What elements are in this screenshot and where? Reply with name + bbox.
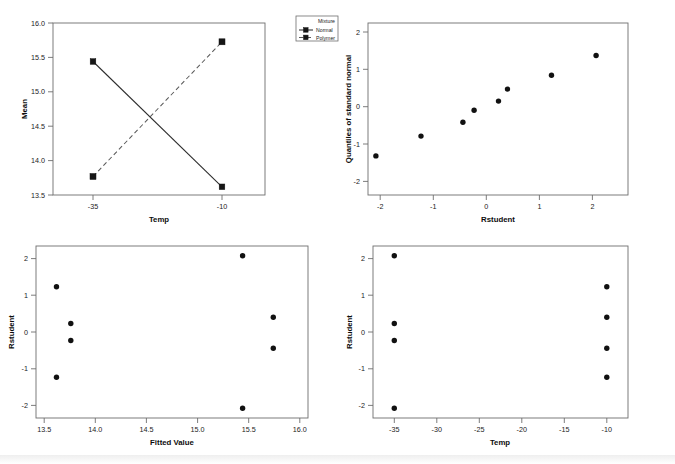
data-point <box>471 108 476 113</box>
y-ticklabel: 2 <box>24 254 28 263</box>
scatter-points <box>392 253 610 411</box>
y-ticklabel: -2 <box>22 401 28 410</box>
y-ticklabel: 15.0 <box>31 87 45 96</box>
y-axis-label: Quantiles of standard normal <box>344 55 353 163</box>
legend-label-normal: Normal <box>316 27 333 33</box>
data-point <box>505 86 510 91</box>
y-ticklabel: 1 <box>24 291 28 300</box>
x-ticklabel: -2 <box>377 202 383 211</box>
x-ticklabel: -25 <box>474 425 484 434</box>
x-axis-ticklabels: -2 -1 0 1 2 <box>377 202 594 211</box>
x-axis-ticklabels: 13.5 14.0 14.5 15.0 15.5 16.0 <box>37 425 307 434</box>
x-ticklabel: 15.5 <box>242 425 256 434</box>
y-ticklabel: 2 <box>356 28 360 37</box>
data-point-marker <box>90 59 96 65</box>
x-ticklabel: -10 <box>602 425 612 434</box>
x-axis-label: Fitted Value <box>150 438 194 447</box>
y-axis-label: Mean <box>20 99 29 119</box>
y-ticklabel: 1 <box>361 291 365 300</box>
y-axis-ticklabels: -2 -1 0 1 2 <box>22 254 28 410</box>
y-axis-ticklabels: 13.5 14.0 14.5 15.0 15.5 16.0 <box>31 19 45 200</box>
x-ticklabel: -10 <box>217 202 227 211</box>
x-ticklabel: -35 <box>88 202 98 211</box>
series-polymer <box>90 39 225 180</box>
y-ticklabel: -1 <box>354 140 360 149</box>
x-axis-ticks <box>93 195 222 200</box>
y-axis-label: Rstudent <box>345 315 354 349</box>
data-point <box>593 53 598 58</box>
x-ticklabel: -30 <box>432 425 442 434</box>
plot-frame <box>368 23 628 195</box>
x-ticklabel: 16.0 <box>293 425 307 434</box>
data-point <box>54 284 59 289</box>
page-scan-edge <box>0 455 675 464</box>
x-ticklabel: 15.0 <box>191 425 205 434</box>
data-point-marker <box>90 174 96 180</box>
interaction-plot-svg: 13.5 14.0 14.5 15.0 15.5 16.0 -35 -10 Te… <box>0 0 340 232</box>
data-point <box>604 284 609 289</box>
x-axis-label: Rstudent <box>481 215 515 224</box>
x-ticklabel: 0 <box>484 202 488 211</box>
y-ticklabel: -1 <box>22 364 28 373</box>
y-ticklabel: 14.0 <box>31 156 45 165</box>
x-axis-ticks <box>44 418 300 423</box>
x-ticklabel: 14.5 <box>139 425 153 434</box>
y-ticklabel: 14.5 <box>31 122 45 131</box>
y-axis-ticks <box>363 32 368 181</box>
x-ticklabel: 1 <box>537 202 541 211</box>
legend-label-polymer: Polymer <box>316 35 335 41</box>
y-axis-ticklabels: -2 -1 0 1 2 <box>354 28 360 186</box>
data-point <box>418 133 423 138</box>
y-axis-ticks <box>31 259 36 406</box>
data-point-marker <box>219 184 225 190</box>
data-point <box>392 253 397 258</box>
normal-probability-plot-svg: -2 -1 0 1 2 -2 -1 0 1 2 Rstudent Q <box>340 0 675 232</box>
y-axis-ticks <box>48 23 53 195</box>
data-point <box>604 375 609 380</box>
series-normal <box>90 59 225 190</box>
y-ticklabel: 0 <box>356 102 360 111</box>
x-ticklabel: 14.0 <box>88 425 102 434</box>
y-ticklabel: -2 <box>359 401 365 410</box>
y-ticklabel: 1 <box>356 65 360 74</box>
y-axis-ticks <box>368 259 373 406</box>
rstudent-temp-plot-svg: -2 -1 0 1 2 -35 -30 -25 -20 -15 -10 <box>340 232 675 464</box>
plot-frame <box>36 246 308 418</box>
x-ticklabel: 2 <box>590 202 594 211</box>
x-ticklabel: 13.5 <box>37 425 51 434</box>
x-ticklabel: -35 <box>389 425 399 434</box>
legend-marker-normal <box>304 28 309 33</box>
y-ticklabel: -2 <box>354 177 360 186</box>
y-ticklabel: 16.0 <box>31 19 45 28</box>
scatter-points <box>54 253 276 411</box>
data-point <box>604 346 609 351</box>
data-point <box>496 98 501 103</box>
statistical-diagnostic-figure: 13.5 14.0 14.5 15.0 15.5 16.0 -35 -10 Te… <box>0 0 675 464</box>
data-point <box>271 346 276 351</box>
data-point <box>373 153 378 158</box>
data-point <box>271 315 276 320</box>
legend-mixture[interactable]: Mixture Normal Polymer <box>296 16 338 41</box>
x-axis-label: Temp <box>490 438 510 447</box>
legend-title: Mixture <box>318 18 335 24</box>
plot-frame <box>373 246 628 418</box>
data-point <box>460 120 465 125</box>
scatter-points <box>373 53 599 159</box>
x-axis-ticks <box>394 418 607 423</box>
data-point <box>54 375 59 380</box>
x-axis-label: Temp <box>149 215 169 224</box>
x-axis-ticklabels: -35 -30 -25 -20 -15 -10 <box>389 425 612 434</box>
panel-interaction-plot: 13.5 14.0 14.5 15.0 15.5 16.0 -35 -10 Te… <box>0 0 340 232</box>
data-point <box>240 253 245 258</box>
x-ticklabel: -15 <box>559 425 569 434</box>
y-axis-ticklabels: -2 -1 0 1 2 <box>359 254 365 410</box>
data-point <box>392 321 397 326</box>
x-axis-ticks <box>380 195 592 200</box>
data-point <box>68 321 73 326</box>
data-point <box>549 73 554 78</box>
y-axis-label: Rstudent <box>7 315 16 349</box>
data-point <box>604 315 609 320</box>
y-ticklabel: 15.5 <box>31 53 45 62</box>
x-ticklabel: -1 <box>430 202 436 211</box>
data-point <box>68 338 73 343</box>
